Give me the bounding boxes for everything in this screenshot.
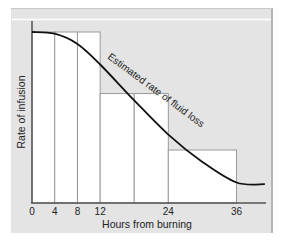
bar-2: [77, 32, 100, 203]
bar-0: [32, 32, 55, 203]
x-tick-8: 8: [75, 206, 81, 217]
bar-3: [100, 94, 134, 203]
bar-4: [134, 94, 168, 203]
chart-svg: Estimated rate of fluid loss 048122436 H…: [0, 0, 285, 244]
x-tick-labels: 048122436: [29, 206, 242, 217]
y-axis-label: Rate of infusion: [15, 75, 27, 148]
bar-1: [55, 32, 78, 203]
bars-group: [32, 32, 236, 203]
x-tick-12: 12: [95, 206, 107, 217]
x-tick-4: 4: [52, 206, 58, 217]
x-tick-24: 24: [163, 206, 175, 217]
x-axis-label: Hours from burning: [102, 218, 192, 230]
bar-5: [168, 150, 236, 203]
x-tick-0: 0: [29, 206, 35, 217]
x-tick-36: 36: [231, 206, 243, 217]
